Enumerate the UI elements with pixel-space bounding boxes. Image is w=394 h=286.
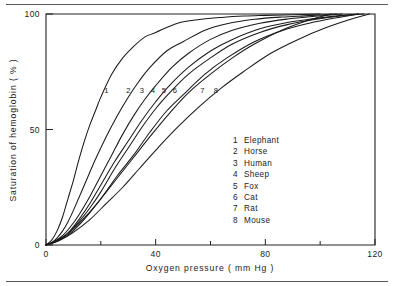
curve-number-2: 2: [126, 86, 130, 95]
curve-mouse: [46, 14, 370, 245]
page-rule-top: [6, 4, 388, 5]
plot-frame: [46, 14, 375, 245]
legend-label-mouse: Mouse: [244, 216, 270, 225]
curve-human: [46, 14, 342, 245]
y-tick-label: 100: [25, 9, 40, 19]
legend-label-fox: Fox: [244, 182, 259, 191]
page-rule-bottom: [6, 281, 388, 282]
data-curves: [46, 14, 370, 245]
x-tick-label: 0: [43, 249, 48, 259]
y-axis-ticks: [46, 14, 53, 245]
curve-horse: [46, 14, 337, 245]
y-axis-title: Saturation of hemoglobin ( % ): [8, 58, 18, 201]
curve-number-3: 3: [140, 86, 144, 95]
y-tick-label: 50: [30, 125, 40, 135]
legend-number-6: 6: [233, 193, 238, 202]
legend-label-human: Human: [244, 159, 272, 168]
x-axis-ticks: [46, 239, 375, 245]
legend-number-3: 3: [233, 159, 238, 168]
legend-number-5: 5: [233, 182, 238, 191]
x-tick-label: 120: [367, 249, 382, 259]
curve-number-4: 4: [151, 86, 155, 95]
legend-label-rat: Rat: [244, 204, 258, 213]
legend-label-sheep: Sheep: [244, 170, 270, 179]
legend-number-7: 7: [233, 204, 238, 213]
y-axis-tick-labels: 050100: [25, 9, 40, 250]
x-tick-label: 80: [260, 249, 270, 259]
curve-number-7: 7: [200, 86, 204, 95]
legend-label-cat: Cat: [244, 193, 258, 202]
legend-label-horse: Horse: [244, 147, 268, 156]
curve-cat: [46, 14, 359, 245]
y-tick-label: 0: [35, 240, 40, 250]
curve-number-8: 8: [214, 86, 218, 95]
curve-number-1: 1: [104, 86, 108, 95]
legend-number-4: 4: [233, 170, 238, 179]
legend-number-2: 2: [233, 147, 238, 156]
curve-number-5: 5: [162, 86, 166, 95]
curve-sheep: [46, 14, 359, 245]
legend: 1Elephant2Horse3Human4Sheep5Fox6Cat7Rat8…: [233, 136, 279, 225]
x-tick-label: 40: [151, 249, 161, 259]
legend-number-8: 8: [233, 216, 238, 225]
curve-number-labels: 12345678: [104, 86, 218, 95]
oxygen-dissociation-chart: 04080120 050100 12345678 Oxygen pressure…: [0, 0, 394, 286]
x-axis-tick-labels: 04080120: [43, 249, 382, 259]
legend-number-1: 1: [233, 136, 238, 145]
curve-fox: [46, 14, 364, 245]
curve-number-6: 6: [173, 86, 177, 95]
legend-label-elephant: Elephant: [244, 136, 279, 145]
figure-container: 04080120 050100 12345678 Oxygen pressure…: [0, 0, 394, 286]
x-axis-title: Oxygen pressure ( mm Hg ): [146, 263, 275, 273]
